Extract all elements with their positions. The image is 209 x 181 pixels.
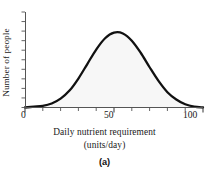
caption-block: Daily nutrient requirement (units/day) (… — [0, 126, 209, 168]
x-axis-ticks — [25, 108, 203, 113]
y-axis-ticks — [22, 12, 26, 108]
x-axis-title: Daily nutrient requirement — [0, 126, 209, 139]
panel-label: (a) — [0, 157, 209, 168]
y-axis-title: Number of people — [2, 9, 11, 117]
x-tick-label-0: 0 — [21, 110, 26, 120]
x-tick-label-50: 50 — [104, 110, 114, 120]
x-tick-label-100: 100 — [183, 110, 197, 120]
figure-panel-a: Number of people 0 50 100 Daily nutrient… — [0, 0, 209, 181]
curve-area-fill — [25, 32, 203, 107]
plot-area: Number of people 0 50 100 — [0, 0, 209, 128]
x-axis-units: (units/day) — [0, 139, 209, 152]
